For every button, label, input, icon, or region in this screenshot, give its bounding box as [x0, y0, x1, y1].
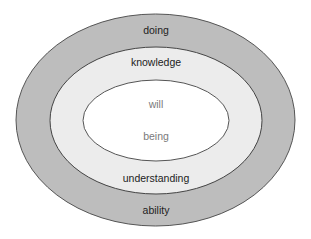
middle-bottom-label: understanding: [123, 172, 190, 184]
inner-bottom-label: being: [143, 130, 169, 142]
inner-top-label: will: [148, 98, 164, 110]
inner-ellipse: [83, 80, 229, 161]
outer-top-label: doing: [143, 24, 169, 36]
nested-ellipse-diagram: doing knowledge will being understanding…: [0, 0, 311, 239]
outer-bottom-label: ability: [143, 204, 171, 216]
middle-top-label: knowledge: [131, 56, 181, 68]
